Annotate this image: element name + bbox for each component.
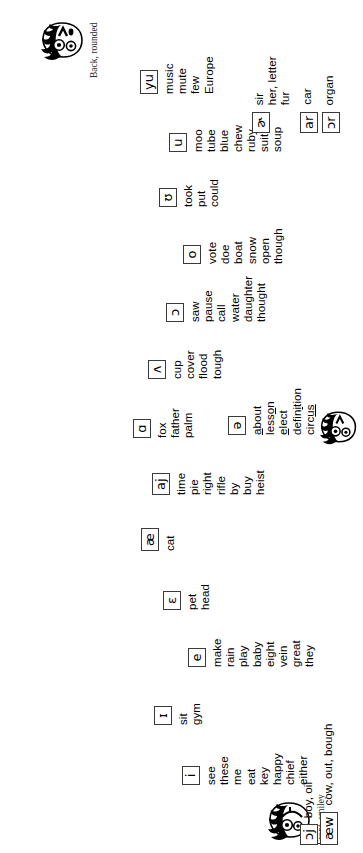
- example-words-o: vote doe boat snow open though: [206, 228, 285, 264]
- vowel-column-uh: ʌ cup cover flood tough: [148, 350, 224, 379]
- phoneme-symbol-aj: aj: [152, 473, 170, 495]
- vowel-column-open-o: ɔ saw pause call water daughter thought: [166, 276, 268, 322]
- vowel-chart-canvas: Front, smiley Back, rounded i: [0, 0, 363, 853]
- phoneme-symbol-schwar: ɚ: [252, 112, 270, 133]
- example-words-ah: fox father palm: [156, 408, 196, 438]
- diphthong-group: ɔj boy, oil æw cow, out, bough: [300, 724, 338, 845]
- back-rounded-face-icon: [41, 17, 85, 63]
- example-words-uu: took put could: [182, 179, 222, 207]
- example-words-ih: sit gym: [177, 703, 203, 725]
- phoneme-symbol-e: e: [188, 648, 206, 667]
- back-rounded-label: Back, rounded: [89, 23, 99, 78]
- vowel-column-o: o vote doe boat snow open though: [183, 228, 285, 264]
- vowel-column-yu: yu music mute few Europe: [140, 56, 216, 94]
- vowel-column-eh: ɛ pet head: [163, 584, 212, 610]
- phoneme-symbol-o: o: [183, 245, 201, 264]
- phoneme-symbol-schwa: ə: [228, 416, 246, 435]
- example-words-oj: boy, oil: [300, 782, 315, 818]
- diphthong-row-oj: ɔj boy, oil: [300, 724, 318, 845]
- schwa-word-lesson: lesson: [264, 388, 277, 435]
- example-words-yu: music mute few Europe: [163, 56, 216, 94]
- example-words-schwar: sir her, letter fur: [252, 56, 293, 105]
- example-words-open-o: saw pause call water daughter thought: [189, 276, 268, 322]
- example-words-aj: time pie right rifle by buy heist: [175, 470, 267, 495]
- example-words-ar: car: [300, 88, 314, 104]
- schwa-word-circus: circus: [304, 388, 317, 435]
- example-words-e: make rain play baby eight vein great the…: [211, 638, 317, 667]
- phoneme-symbol-i: i: [182, 766, 200, 785]
- phoneme-symbol-aew: æw: [320, 812, 338, 845]
- vowel-column-ae: æ cat: [141, 528, 177, 551]
- schwa-word-about: about: [251, 388, 264, 435]
- example-words-eh: pet head: [186, 584, 212, 610]
- example-words-schwa: about lesson elect definition circus: [251, 388, 317, 435]
- phoneme-symbol-open-o: ɔ: [166, 303, 184, 322]
- phoneme-symbol-oj: ɔj: [300, 824, 318, 845]
- r-colored-row-ar: ar car: [300, 56, 318, 133]
- r-colored-row-schwar: ɚ sir her, letter fur: [252, 56, 293, 133]
- example-words-i: see these me eat key happy chief either: [205, 753, 311, 785]
- phoneme-symbol-ih: ɪ: [154, 706, 172, 725]
- schwa-word-definition: definition: [291, 388, 304, 435]
- diphthong-row-aew: æw cow, out, bough: [320, 724, 338, 845]
- r-colored-group: ɚ sir her, letter fur ar car ɔr organ: [252, 56, 344, 133]
- phoneme-symbol-uh: ʌ: [148, 360, 166, 379]
- vowel-column-e: e make rain play baby eight vein great t…: [188, 638, 317, 667]
- center-face-icon: [320, 407, 358, 447]
- phoneme-symbol-yu: yu: [140, 70, 158, 94]
- vowel-column-ih: ɪ sit gym: [154, 703, 203, 725]
- phoneme-symbol-u: u: [169, 133, 187, 152]
- phoneme-symbol-ar: ar: [300, 112, 318, 133]
- vowel-column-schwa: ə about lesson elect definition circus: [228, 388, 317, 435]
- example-words-ae: cat: [164, 535, 177, 551]
- example-words-aew: cow, out, bough: [320, 724, 335, 806]
- phoneme-symbol-uu: ʊ: [159, 188, 177, 207]
- phoneme-symbol-ae: æ: [141, 528, 159, 551]
- phoneme-symbol-eh: ɛ: [163, 591, 181, 610]
- vowel-column-aj: aj time pie right rifle by buy heist: [152, 470, 267, 495]
- vowel-column-uu: ʊ took put could: [159, 179, 222, 207]
- schwa-word-elect: elect: [277, 388, 290, 435]
- example-words-or: organ: [322, 76, 336, 106]
- phoneme-symbol-or: ɔr: [322, 113, 340, 134]
- r-colored-row-or: ɔr organ: [322, 56, 340, 133]
- example-words-uh: cup cover flood tough: [171, 350, 224, 379]
- vowel-column-i: i see these me eat key happy chief eithe…: [182, 753, 311, 785]
- phoneme-symbol-ah: ɑ: [133, 419, 151, 438]
- vowel-column-ah: ɑ fox father palm: [133, 408, 196, 438]
